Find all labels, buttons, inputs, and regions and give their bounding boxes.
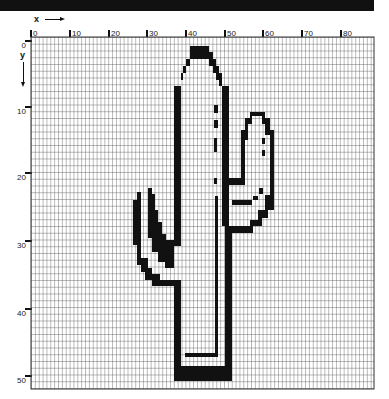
pixel-grid <box>0 0 389 399</box>
